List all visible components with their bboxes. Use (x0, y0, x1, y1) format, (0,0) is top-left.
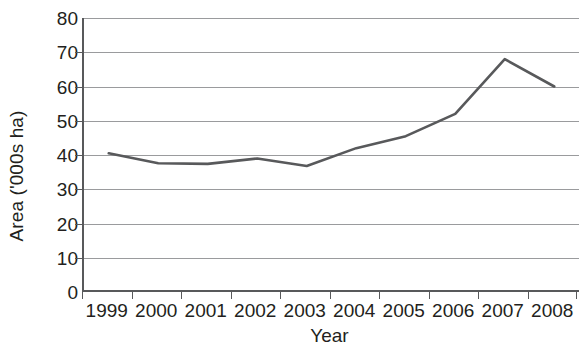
x-axis-tick-mark (429, 292, 430, 299)
x-axis-tick-label: 2008 (531, 299, 573, 323)
y-axis-tick-label: 0 (67, 283, 78, 302)
x-axis-tick-mark (82, 292, 83, 299)
x-axis-tick-label: 2004 (333, 299, 375, 323)
x-axis-tick-label: 2005 (383, 299, 425, 323)
x-axis-tick-label: 2006 (432, 299, 474, 323)
y-axis-tick-mark (75, 52, 82, 53)
x-axis-tick-mark (576, 292, 577, 299)
x-axis-tick-mark (132, 292, 133, 299)
x-axis-tick-label: 2000 (135, 299, 177, 323)
x-axis-tick-label: 2002 (234, 299, 276, 323)
x-axis-tick-mark (231, 292, 232, 299)
x-axis-tick-label: 1999 (86, 299, 128, 323)
x-axis-tick-marks (82, 292, 577, 299)
x-axis-tick-label: 2003 (284, 299, 326, 323)
x-axis-tick-labels: 1999200020012002200320042005200620072008 (82, 299, 577, 323)
data-series-line (84, 18, 579, 292)
y-axis-tick-mark (75, 155, 82, 156)
y-axis-tick-mark (75, 189, 82, 190)
x-axis-tick-mark (330, 292, 331, 299)
series-line-area (109, 59, 555, 166)
y-axis-tick-labels: 01020304050607080 (34, 18, 78, 292)
y-axis-tick-mark (75, 87, 82, 88)
y-axis-tick-mark (75, 224, 82, 225)
y-axis-tick-mark (75, 258, 82, 259)
x-axis-tick-mark (528, 292, 529, 299)
x-axis-title: Year (82, 325, 577, 347)
y-axis-tick-label: 80 (57, 9, 78, 28)
x-axis-tick-mark (478, 292, 479, 299)
x-axis-tick-label: 2001 (185, 299, 227, 323)
x-axis-tick-mark (280, 292, 281, 299)
x-axis-tick-mark (181, 292, 182, 299)
plot-area (82, 18, 579, 292)
x-axis-tick-mark (379, 292, 380, 299)
y-axis-tick-mark (75, 121, 82, 122)
x-axis-tick-label: 2007 (482, 299, 524, 323)
y-axis-title: Area ('000s ha) (0, 0, 34, 352)
